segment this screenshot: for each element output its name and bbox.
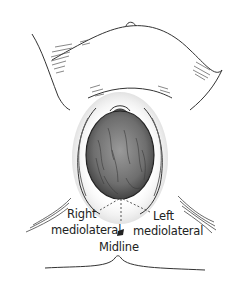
label-left-mediolateral-line1: Left — [153, 210, 174, 222]
fetal-head — [86, 111, 154, 199]
label-right-mediolateral-line2: mediolateral — [51, 224, 121, 236]
label-right-mediolateral-line1: Right — [67, 208, 96, 220]
buttocks-line — [45, 256, 205, 270]
label-left-mediolateral-line2: mediolateral — [133, 225, 203, 237]
label-midline: Midline — [99, 241, 139, 253]
